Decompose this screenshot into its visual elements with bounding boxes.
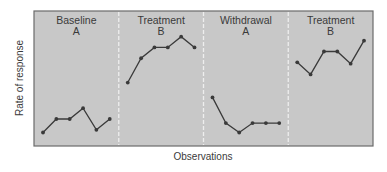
data-point <box>81 106 85 110</box>
data-point <box>126 81 130 85</box>
data-point <box>41 131 45 135</box>
data-point <box>295 60 299 64</box>
data-point <box>95 128 99 132</box>
data-point <box>251 121 255 125</box>
data-point <box>166 46 170 50</box>
data-point <box>349 62 353 66</box>
data-point <box>54 117 58 121</box>
data-point <box>335 50 339 54</box>
data-point <box>211 96 215 100</box>
data-point <box>322 50 326 54</box>
data-point <box>277 121 281 125</box>
data-point <box>237 131 241 135</box>
data-point <box>68 117 72 121</box>
data-point <box>139 56 143 60</box>
phase-code-label: B <box>327 25 334 37</box>
data-point <box>309 73 313 77</box>
phase-code-label: A <box>242 25 249 37</box>
data-point <box>179 35 183 39</box>
data-point <box>108 117 112 121</box>
data-point <box>362 39 366 43</box>
abab-design-chart: BaselineATreatmentBWithdrawalATreatmentB… <box>0 0 387 172</box>
y-axis-label: Rate of response <box>14 39 25 116</box>
phase-code-label: A <box>73 25 80 37</box>
data-point <box>224 121 228 125</box>
phase-code-label: B <box>158 25 165 37</box>
data-point <box>264 121 268 125</box>
data-point <box>193 46 197 50</box>
data-point <box>153 46 157 50</box>
x-axis-label: Observations <box>174 151 233 162</box>
